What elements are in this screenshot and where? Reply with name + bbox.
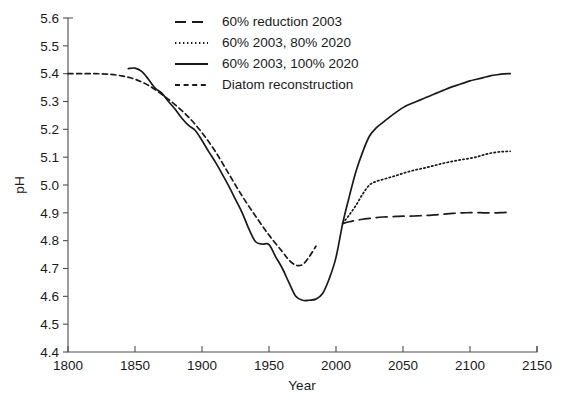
- series-line-3: [68, 74, 316, 266]
- x-tick-label: 2050: [388, 358, 418, 373]
- series-line-2: [128, 68, 510, 301]
- ph-trend-chart: 4.44.54.64.74.84.95.05.15.25.35.45.55.6 …: [0, 0, 561, 398]
- legend-label-0: 60% reduction 2003: [222, 14, 342, 29]
- x-tick-label: 2100: [455, 358, 485, 373]
- legend-label-1: 60% 2003, 80% 2020: [222, 35, 351, 50]
- x-tick-label: 2150: [522, 358, 552, 373]
- chart-legend: 60% reduction 200360% 2003, 80% 202060% …: [175, 14, 359, 92]
- legend-label-3: Diatom reconstruction: [222, 77, 353, 92]
- x-tick-label: 1950: [254, 358, 284, 373]
- x-tick-label: 1850: [120, 358, 150, 373]
- y-tick-label: 4.6: [40, 289, 59, 304]
- y-tick-label: 5.1: [40, 150, 59, 165]
- y-tick-label: 4.9: [40, 206, 59, 221]
- y-tick-label: 5.2: [40, 122, 59, 137]
- x-axis-tick-group: 18001850190019502000205021002150: [53, 346, 552, 373]
- x-tick-label: 2000: [321, 358, 351, 373]
- y-tick-label: 5.3: [40, 94, 59, 109]
- x-tick-label: 1900: [187, 358, 217, 373]
- figure-container: 4.44.54.64.74.84.95.05.15.25.35.45.55.6 …: [0, 0, 561, 398]
- y-tick-label: 4.8: [40, 233, 59, 248]
- x-axis-title: Year: [288, 378, 316, 393]
- y-tick-label: 5.5: [40, 39, 59, 54]
- legend-label-2: 60% 2003, 100% 2020: [222, 56, 359, 71]
- series-group: [68, 68, 510, 301]
- y-axis-tick-group: 4.44.54.64.74.84.95.05.15.25.35.45.55.6: [40, 11, 68, 360]
- series-line-0: [343, 212, 511, 223]
- y-tick-label: 5.4: [40, 66, 59, 81]
- y-tick-label: 4.5: [40, 317, 59, 332]
- y-tick-label: 5.6: [40, 11, 59, 26]
- y-axis-title: pH: [12, 176, 27, 193]
- y-tick-label: 5.0: [40, 178, 59, 193]
- x-tick-label: 1800: [53, 358, 83, 373]
- y-tick-label: 4.7: [40, 261, 59, 276]
